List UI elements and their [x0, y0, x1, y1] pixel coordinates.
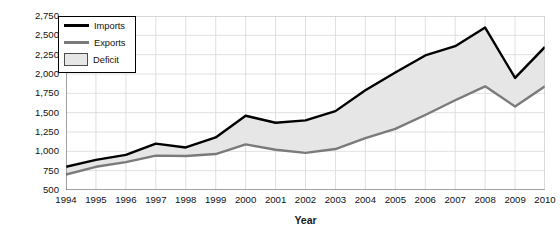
- y-tick-label: 2,250: [0, 50, 59, 60]
- y-tick-label: 1,000: [0, 146, 59, 156]
- legend-item-imports: Imports: [59, 17, 135, 34]
- legend-label-deficit: Deficit: [93, 55, 119, 65]
- imports-swatch-icon: [64, 24, 89, 27]
- chart-legend: Imports Exports Deficit: [58, 16, 136, 73]
- deficit-swatch-icon: [64, 53, 88, 66]
- chart-canvas: [66, 16, 545, 190]
- y-tick-label: 2,500: [0, 30, 59, 40]
- y-tick-label: 1,500: [0, 108, 59, 118]
- plot-area: [66, 16, 545, 190]
- legend-item-exports: Exports: [59, 34, 135, 51]
- x-tick-label: 2010: [525, 194, 560, 205]
- legend-label-exports: Exports: [94, 38, 126, 48]
- exports-swatch-icon: [64, 41, 89, 44]
- x-axis-title: Year: [66, 214, 545, 226]
- y-tick-label: 2,000: [0, 69, 59, 79]
- y-tick-label: 1,750: [0, 88, 59, 98]
- y-tick-label: 750: [0, 166, 59, 176]
- y-tick-label: 1,250: [0, 127, 59, 137]
- legend-label-imports: Imports: [94, 21, 125, 31]
- y-tick-label: 2,750: [0, 11, 59, 21]
- legend-item-deficit: Deficit: [59, 51, 135, 68]
